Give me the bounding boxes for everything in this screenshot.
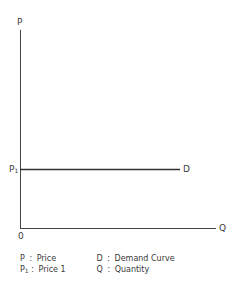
legend-separator: :: [107, 253, 110, 264]
legend-symbol: D: [97, 253, 103, 264]
demand-curve-label: D: [183, 165, 190, 174]
p1-tick-label: P1: [9, 165, 18, 174]
origin-label: 0: [18, 232, 24, 241]
legend-item-price-1: P1 : Price 1: [20, 264, 94, 276]
chart-plot: [0, 0, 238, 289]
legend-text: Price: [37, 253, 57, 264]
legend-symbol: P1: [20, 264, 29, 276]
legend-text: Demand Curve: [115, 253, 175, 264]
legend-text: Quantity: [115, 264, 150, 275]
x-axis-label: Q: [219, 224, 226, 233]
legend-separator: :: [31, 264, 34, 275]
p1-subscript: 1: [14, 167, 18, 174]
y-axis-label: P: [17, 18, 22, 27]
legend-symbol: P: [20, 253, 25, 264]
legend-text: Price 1: [38, 264, 65, 275]
legend-item-price: P : Price: [20, 253, 94, 264]
legend-item-quantity: Q : Quantity: [97, 264, 150, 275]
legend-separator: :: [29, 253, 32, 264]
legend-symbol-subscript: 1: [25, 267, 29, 274]
legend-row-1: P : Price D : Demand Curve: [20, 253, 175, 264]
legend-row-2: P1 : Price 1 Q : Quantity: [20, 264, 175, 276]
legend-symbol: Q: [97, 264, 103, 275]
legend-separator: :: [107, 264, 110, 275]
chart-legend: P : Price D : Demand Curve P1 : Price 1 …: [20, 253, 175, 276]
legend-item-demand-curve: D : Demand Curve: [97, 253, 175, 264]
